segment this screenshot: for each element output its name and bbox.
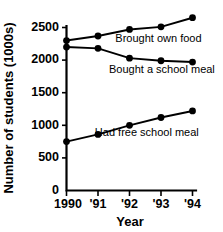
data-point bbox=[158, 114, 165, 121]
x-tick-label: '91 bbox=[90, 197, 107, 211]
x-tick-label: 1990 bbox=[54, 197, 82, 211]
data-point bbox=[189, 108, 196, 115]
y-axis-title: Number of students (1000s) bbox=[1, 22, 16, 193]
x-axis-title: Year bbox=[116, 214, 143, 229]
axis-lines bbox=[67, 26, 197, 191]
y-tick-label: 500 bbox=[38, 150, 59, 164]
series-label: Bought a school meal bbox=[109, 63, 215, 75]
y-tick-label: 1000 bbox=[31, 118, 59, 132]
x-tick-label: '94 bbox=[184, 197, 201, 211]
y-tick-label: 1500 bbox=[31, 85, 59, 99]
data-point bbox=[95, 33, 102, 40]
x-tick-label: '92 bbox=[121, 197, 138, 211]
y-tick-label: 2500 bbox=[31, 20, 59, 34]
x-tick-labels: 1990 '91 '92 '93 '94 bbox=[54, 197, 201, 211]
series-label: Had free school meal bbox=[95, 126, 199, 138]
data-point bbox=[95, 45, 102, 52]
data-point bbox=[126, 55, 133, 62]
data-point bbox=[189, 14, 196, 21]
y-tick-labels: 2500 2000 1500 1000 500 0 bbox=[31, 20, 59, 197]
chart-canvas: Number of students (1000s) 2500 2000 150… bbox=[0, 0, 223, 232]
data-point bbox=[63, 44, 70, 51]
data-point bbox=[63, 138, 70, 145]
data-point bbox=[158, 23, 165, 30]
y-tick-label: 2000 bbox=[31, 52, 59, 66]
y-tick-label: 0 bbox=[52, 183, 59, 197]
line-chart: Number of students (1000s) 2500 2000 150… bbox=[0, 0, 223, 232]
data-point bbox=[63, 37, 70, 44]
series-label: Brought own food bbox=[115, 32, 201, 44]
x-tick-label: '93 bbox=[153, 197, 170, 211]
series-annotations: Brought own foodBought a school mealHad … bbox=[95, 32, 215, 139]
